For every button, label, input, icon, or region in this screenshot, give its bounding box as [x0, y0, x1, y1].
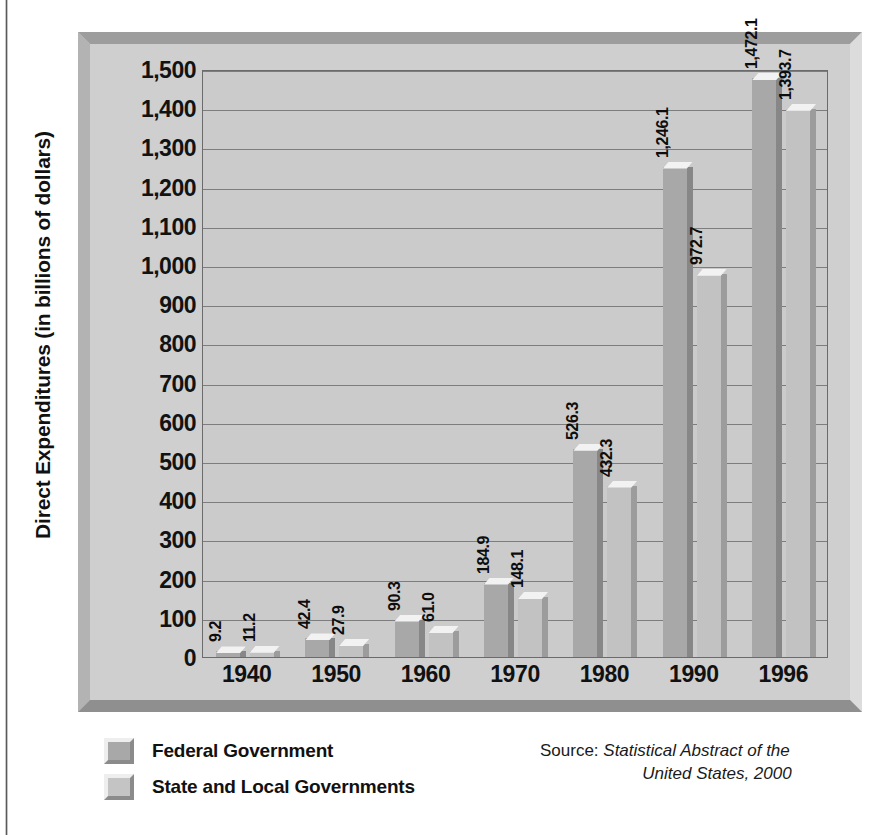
bar-front-face [518, 597, 542, 657]
gridline [203, 110, 827, 111]
bar-front-face [429, 631, 453, 657]
bar-front-face [786, 109, 810, 657]
y-tick-label: 1,500 [104, 59, 196, 82]
y-tick-label: 100 [104, 607, 196, 630]
gridline [203, 502, 827, 503]
legend-label: State and Local Governments [152, 776, 415, 798]
bar: 42.4 [305, 633, 335, 657]
chart-legend: Federal GovernmentState and Local Govern… [104, 738, 415, 810]
legend-swatch-icon [104, 738, 134, 764]
bar: 432.3 [607, 481, 637, 657]
bar-front-face [752, 78, 776, 657]
y-tick-label: 0 [104, 647, 196, 670]
legend-item[interactable]: State and Local Governments [104, 774, 415, 800]
gridline [203, 267, 827, 268]
bar-side-face [631, 486, 637, 657]
y-tick-label: 1,300 [104, 137, 196, 160]
bar-value-label: 27.9 [331, 606, 347, 636]
bar: 11.2 [250, 646, 280, 657]
bar-side-face [453, 631, 459, 657]
gridline [203, 228, 827, 229]
frame-bevel-bottom [78, 700, 862, 712]
bar-side-face [508, 583, 514, 657]
y-tick-label: 1,200 [104, 176, 196, 199]
bar-front-face [395, 620, 419, 657]
y-tick-label: 700 [104, 372, 196, 395]
bar: 9.2 [216, 646, 246, 657]
y-tick-label: 1,100 [104, 215, 196, 238]
y-tick-label: 600 [104, 411, 196, 434]
x-tick-label: 1940 [222, 663, 272, 686]
bar-value-label: 526.3 [565, 402, 581, 440]
bar-side-face [542, 597, 548, 657]
bar-value-label: 90.3 [387, 581, 403, 611]
bar-value-label: 11.2 [242, 613, 258, 642]
bar-side-face [274, 651, 280, 657]
bar-front-face [697, 274, 721, 657]
gridline [203, 463, 827, 464]
bar-value-label: 148.1 [510, 550, 526, 588]
frame-bevel-right [850, 32, 862, 712]
bar: 27.9 [339, 639, 369, 657]
y-tick-label: 400 [104, 490, 196, 513]
bar-value-label: 1,472.1 [744, 18, 760, 69]
gridline [203, 149, 827, 150]
legend-swatch-icon [104, 774, 134, 800]
source-title-line1: Statistical Abstract of the [603, 741, 789, 760]
x-tick-label: 1960 [401, 663, 451, 686]
bar-side-face [363, 644, 369, 657]
x-tick-label: 1980 [580, 663, 630, 686]
bar-value-label: 972.7 [689, 227, 705, 265]
gridline [203, 541, 827, 542]
bar-value-label: 1,246.1 [655, 107, 671, 158]
bar-front-face [607, 486, 631, 657]
y-tick-label: 1,400 [104, 98, 196, 121]
gridline [203, 345, 827, 346]
x-tick-label: 1970 [490, 663, 540, 686]
legend-label: Federal Government [152, 740, 333, 762]
y-tick-label: 900 [104, 294, 196, 317]
bar-value-label: 184.9 [476, 535, 492, 573]
bar-value-label: 61.0 [421, 593, 437, 623]
source-title-line2: United States, 2000 [540, 763, 870, 786]
bar: 1,393.7 [786, 104, 816, 657]
y-tick-label: 500 [104, 451, 196, 474]
bar-value-label: 1,393.7 [778, 49, 794, 100]
y-tick-label: 200 [104, 568, 196, 591]
bar: 1,472.1 [752, 73, 782, 657]
bar: 184.9 [484, 578, 514, 657]
y-axis-title: Direct Expenditures (in billions of doll… [23, 25, 63, 645]
gridline [203, 71, 827, 72]
source-label: Source: [540, 741, 603, 760]
x-tick-label: 1950 [311, 663, 361, 686]
bar-side-face [810, 109, 816, 657]
bar: 61.0 [429, 626, 459, 657]
bar-side-face [721, 274, 727, 657]
y-tick-label: 800 [104, 333, 196, 356]
gridline [203, 306, 827, 307]
x-tick-label: 1990 [669, 663, 719, 686]
x-tick-label: 1996 [758, 663, 808, 686]
frame-bevel-left [78, 32, 90, 712]
bar: 148.1 [518, 592, 548, 657]
gridline [203, 189, 827, 190]
bar-side-face [329, 638, 335, 657]
page-edge-rule [5, 0, 8, 835]
bar-value-label: 42.4 [297, 600, 313, 630]
source-note: Source: Statistical Abstract of the Unit… [540, 740, 870, 786]
y-tick-label: 1,000 [104, 255, 196, 278]
bar-front-face [573, 449, 597, 657]
gridline [203, 424, 827, 425]
bar-front-face [305, 638, 329, 657]
bar-side-face [597, 449, 603, 657]
bar-side-face [776, 78, 782, 657]
legend-item[interactable]: Federal Government [104, 738, 415, 764]
y-axis-tick-labels: 01002003004005006007008009001,0001,1001,… [104, 70, 196, 658]
bar: 972.7 [697, 269, 727, 657]
bar-value-label: 9.2 [208, 621, 224, 642]
bar-front-face [663, 167, 687, 657]
x-axis-tick-labels: 1940195019601970198019901996 [202, 663, 828, 699]
y-tick-label: 300 [104, 529, 196, 552]
bar-front-face [484, 583, 508, 657]
plot-area: 9.211.242.427.990.361.0184.9148.1526.343… [202, 70, 828, 658]
